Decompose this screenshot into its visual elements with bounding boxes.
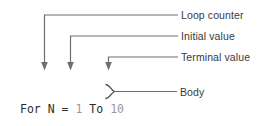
connector-initial-value [67, 36, 178, 71]
terminal-value-token: 10 [110, 102, 124, 116]
keyword-to: To [89, 102, 103, 116]
loop-variable: N [48, 102, 55, 116]
for-loop-syntax-diagram: For N = 1 To 10 Statement(s) EndFor Loop… [0, 0, 258, 126]
callout-label-terminal-value: Terminal value [181, 51, 250, 63]
code-line-for: For N = 1 To 10 [20, 102, 124, 118]
code-space-2 [55, 102, 62, 116]
connector-terminal-value [105, 57, 178, 71]
equals-sign: = [62, 102, 69, 116]
callout-label-loop-counter: Loop counter [181, 9, 244, 21]
keyword-for: For [20, 102, 41, 116]
pseudocode-block: For N = 1 To 10 Statement(s) EndFor [20, 71, 124, 126]
code-space-1 [41, 102, 48, 116]
callout-label-initial-value: Initial value [181, 30, 235, 42]
callout-label-body: Body [180, 86, 204, 98]
